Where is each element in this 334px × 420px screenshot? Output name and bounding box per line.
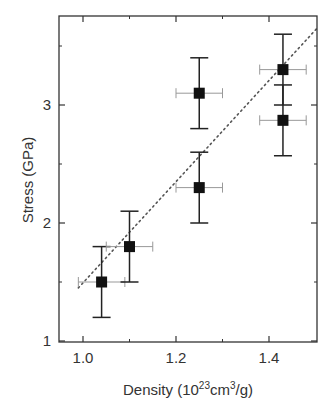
y-axis-label: Stress (GPa) [19,137,36,224]
x-tick-label: 1.4 [259,349,280,366]
data-point-marker [194,182,205,193]
x-axis-label: Density (1023cm3/g) [123,380,253,398]
x-tick-label: 1.2 [166,349,187,366]
data-points [96,64,288,287]
data-point-marker [96,277,107,288]
y-tick-label: 1 [43,332,51,349]
data-point-marker [194,88,205,99]
data-point-marker [124,241,135,252]
x-tick-label: 1.0 [73,349,94,366]
y-tick-label: 3 [43,96,51,113]
data-point-marker [277,115,288,126]
data-point-marker [277,64,288,75]
scatter-chart: 1.01.21.4123 Stress (GPa) Density (1023c… [0,0,334,420]
y-tick-label: 2 [43,214,51,231]
axis-ticks: 1.01.21.4123 [43,16,317,366]
